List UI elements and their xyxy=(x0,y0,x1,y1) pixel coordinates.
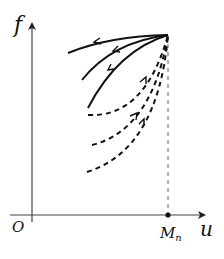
mn-point xyxy=(165,212,170,217)
phase-diagram: f u O Mn xyxy=(0,0,224,259)
dashed-curve-2 xyxy=(92,35,168,145)
mn-label-sub: n xyxy=(175,232,181,243)
y-axis-label: f xyxy=(12,12,26,37)
mn-label: Mn xyxy=(159,224,182,243)
origin-label: O xyxy=(12,218,24,236)
x-axis-label: u xyxy=(200,217,213,241)
arrow-icon xyxy=(140,77,146,84)
mn-label-main: M xyxy=(159,224,176,242)
dashed-curve-1 xyxy=(88,35,168,115)
arrow-icon xyxy=(94,38,101,44)
arrow-icon xyxy=(108,64,114,70)
